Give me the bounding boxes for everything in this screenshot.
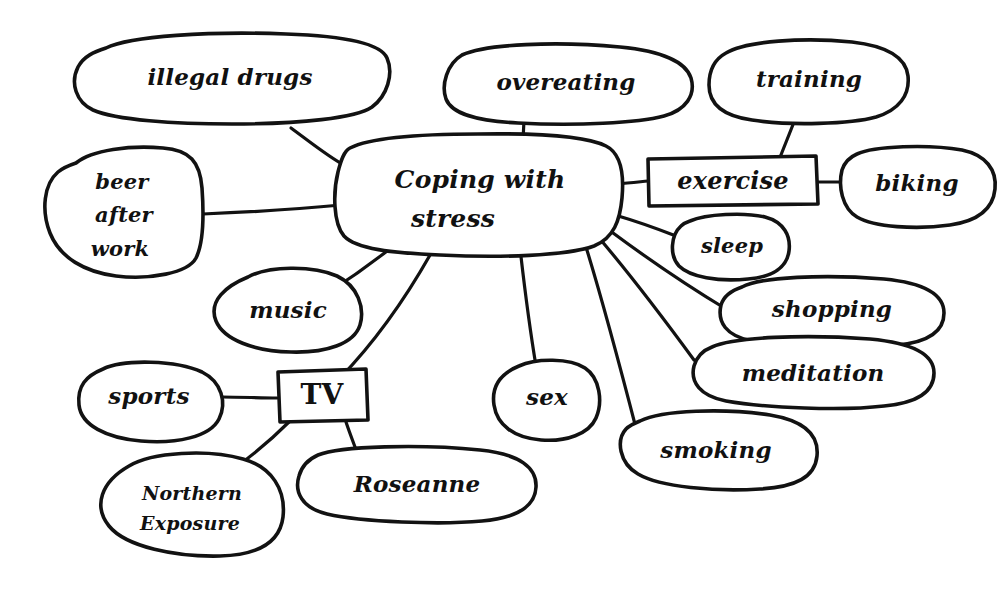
- mind-map-canvas: Coping with stress illegal drugs beer af…: [0, 0, 1006, 599]
- node-overeating[interactable]: overeating: [444, 44, 692, 124]
- node-sports[interactable]: sports: [79, 362, 223, 441]
- node-sports-label: sports: [107, 382, 189, 409]
- node-music-label: music: [249, 296, 327, 323]
- node-northern-exposure-label-line2: Exposure: [139, 512, 240, 534]
- node-coping-with-stress-label-line1: Coping with: [395, 165, 566, 194]
- node-training[interactable]: training: [709, 40, 908, 124]
- node-music[interactable]: music: [214, 268, 361, 352]
- node-biking-label: biking: [875, 169, 959, 196]
- node-beer-after-work-label-line2: after: [95, 202, 155, 227]
- edge-exercise-training: [779, 122, 794, 160]
- node-sleep-label: sleep: [700, 233, 763, 258]
- node-sleep[interactable]: sleep: [672, 214, 789, 280]
- node-tv[interactable]: TV: [278, 369, 368, 422]
- node-training-label: training: [756, 65, 862, 92]
- node-northern-exposure-outline: [101, 453, 284, 556]
- node-northern-exposure[interactable]: Northern Exposure: [101, 453, 284, 556]
- node-roseanne-label: Roseanne: [353, 470, 481, 497]
- edge-central-illegal-drugs: [291, 128, 344, 165]
- node-meditation-label: meditation: [742, 359, 885, 386]
- node-coping-with-stress-outline: [335, 134, 623, 256]
- node-biking[interactable]: biking: [841, 147, 996, 228]
- edge-tv-sports: [222, 397, 277, 398]
- node-coping-with-stress-label-line2: stress: [410, 204, 495, 233]
- node-exercise[interactable]: exercise: [648, 156, 818, 206]
- node-exercise-label: exercise: [677, 166, 789, 195]
- node-beer-after-work[interactable]: beer after work: [45, 147, 203, 277]
- node-northern-exposure-label-line1: Northern: [141, 482, 242, 504]
- node-smoking[interactable]: smoking: [620, 411, 817, 490]
- node-illegal-drugs[interactable]: illegal drugs: [74, 33, 389, 124]
- node-roseanne[interactable]: Roseanne: [298, 447, 536, 523]
- node-illegal-drugs-label: illegal drugs: [147, 63, 312, 90]
- node-coping-with-stress[interactable]: Coping with stress: [335, 134, 623, 256]
- edge-central-sex: [520, 248, 536, 366]
- edge-central-beer-after-work: [203, 205, 341, 214]
- node-beer-after-work-label-line3: work: [91, 236, 150, 261]
- node-sex-label: sex: [525, 383, 568, 410]
- node-tv-label: TV: [301, 378, 345, 411]
- node-shopping-label: shopping: [771, 295, 892, 322]
- node-overeating-label: overeating: [496, 68, 635, 95]
- node-sex[interactable]: sex: [494, 360, 600, 440]
- edge-central-sleep: [615, 215, 676, 236]
- node-meditation[interactable]: meditation: [693, 337, 934, 409]
- node-smoking-label: smoking: [659, 436, 772, 463]
- node-beer-after-work-label-line1: beer: [95, 169, 150, 194]
